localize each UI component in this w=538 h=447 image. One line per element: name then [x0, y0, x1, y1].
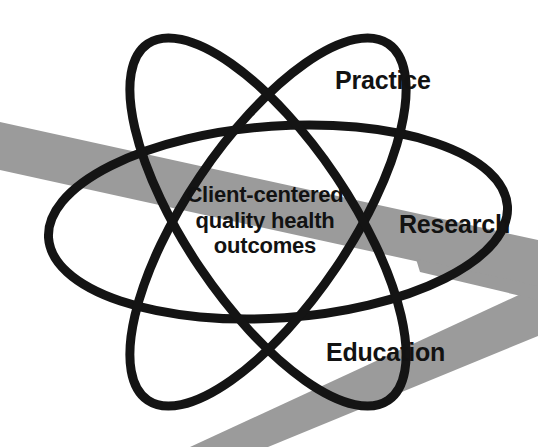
center-label: Client-centered quality health outcomes	[180, 182, 350, 259]
diagram-canvas: Practice Research Education Client-cente…	[0, 0, 538, 447]
center-label-line-2: quality health	[180, 208, 350, 234]
orbit-label-research: Research	[399, 212, 510, 237]
orbit-label-practice: Practice	[335, 68, 431, 93]
center-label-line-3: outcomes	[180, 233, 350, 259]
orbit-label-education: Education	[326, 340, 445, 365]
center-label-line-1: Client-centered	[180, 182, 350, 208]
